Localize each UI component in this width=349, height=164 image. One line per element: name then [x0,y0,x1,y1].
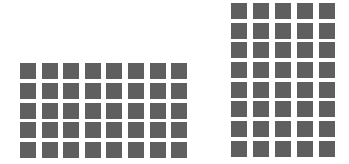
square [106,122,122,138]
square [275,3,291,19]
square [231,3,247,19]
square [106,142,122,158]
square [128,122,144,138]
square [128,63,144,79]
right-square-grid [231,3,335,157]
square [20,142,36,158]
square [253,62,269,78]
square [297,62,313,78]
square [106,103,122,119]
square [253,121,269,137]
square [20,63,36,79]
square [275,141,291,157]
square [297,101,313,117]
square [253,42,269,58]
square [319,121,335,137]
square [275,42,291,58]
square [42,83,58,99]
square [85,103,101,119]
square [253,101,269,117]
square [85,63,101,79]
square [275,101,291,117]
square [275,121,291,137]
square [171,63,187,79]
square [297,121,313,137]
square [150,103,166,119]
square [150,83,166,99]
left-square-grid [20,63,187,158]
square [150,122,166,138]
square [319,141,335,157]
square [297,23,313,39]
square [319,42,335,58]
square [297,3,313,19]
square [231,141,247,157]
square [275,82,291,98]
square [63,63,79,79]
square [319,82,335,98]
square [42,63,58,79]
square [85,142,101,158]
square [63,122,79,138]
square [63,103,79,119]
square [20,103,36,119]
square [231,121,247,137]
square [275,23,291,39]
square [297,82,313,98]
square [20,83,36,99]
square [319,3,335,19]
square [42,103,58,119]
square [42,122,58,138]
square [231,82,247,98]
square [63,83,79,99]
square [171,122,187,138]
square [231,62,247,78]
square [20,122,36,138]
square [106,63,122,79]
square [106,83,122,99]
square [128,142,144,158]
square [253,141,269,157]
square [297,42,313,58]
square [63,142,79,158]
square [297,141,313,157]
square [42,142,58,158]
square [253,3,269,19]
square [150,142,166,158]
square [319,62,335,78]
square [171,83,187,99]
square [231,42,247,58]
square [319,101,335,117]
square [128,103,144,119]
square [85,122,101,138]
square [253,82,269,98]
square [319,23,335,39]
square [253,23,269,39]
square [128,83,144,99]
square [231,101,247,117]
square [275,62,291,78]
square [85,83,101,99]
square [150,63,166,79]
square [171,103,187,119]
square [171,142,187,158]
square [231,23,247,39]
